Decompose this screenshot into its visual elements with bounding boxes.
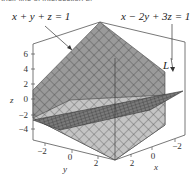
x-tick-neg2: −2 <box>172 141 182 151</box>
annotation-plane-1: x + y + z = 1 <box>11 10 70 22</box>
annotation-arrow-1 <box>45 26 72 50</box>
z-tick-6: 6 <box>24 49 29 59</box>
z-axis-label: z <box>9 95 14 105</box>
z-tick-neg2: −2 <box>18 110 28 120</box>
annotation-plane-2: x − 2y + 3z = 1 <box>120 10 190 22</box>
z-tick-4: 4 <box>24 64 29 74</box>
arrowhead-1-icon <box>67 45 72 50</box>
z-tick-2: 2 <box>24 79 29 89</box>
x-axis-label: x <box>153 162 158 172</box>
plot-3d: 6 4 2 0 −2 −4 z −2 0 2 y 2 0 −2 x x + y … <box>0 0 194 181</box>
arrowhead-L-icon <box>170 67 175 72</box>
y-axis-label: y <box>62 164 67 174</box>
z-tick-neg4: −4 <box>18 124 28 134</box>
annotation-line-L: L <box>162 59 169 71</box>
x-tick-0: 0 <box>151 151 156 161</box>
z-tick-0: 0 <box>24 94 29 104</box>
y-tick-neg2: −2 <box>37 146 47 156</box>
y-tick-0: 0 <box>68 152 73 162</box>
y-tick-2: 2 <box>94 158 99 168</box>
x-tick-2: 2 <box>130 158 135 168</box>
